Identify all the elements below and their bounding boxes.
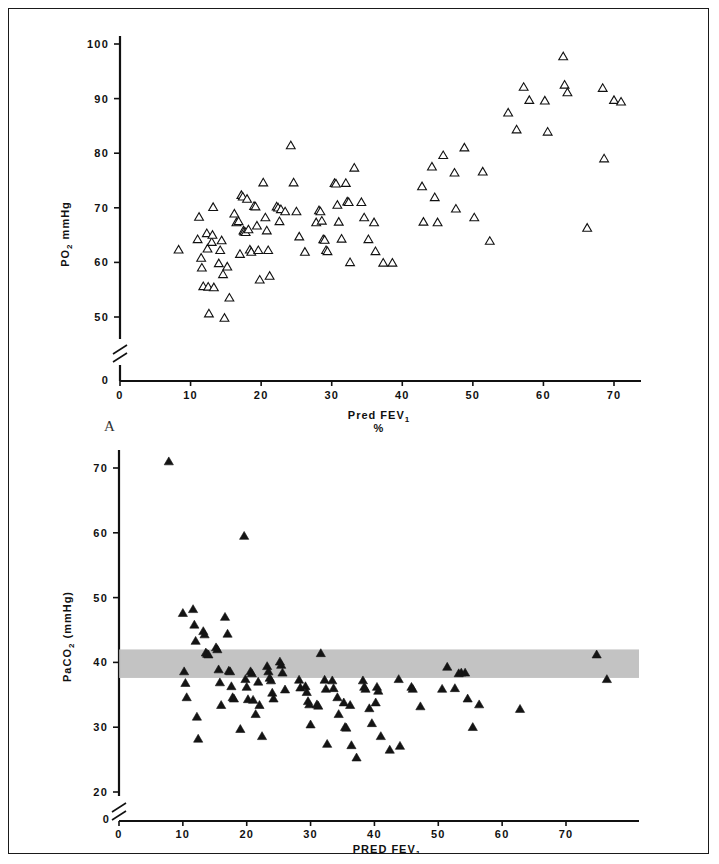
data-point-panel-b xyxy=(191,636,200,644)
x-axis-title-main-panel-b: PRED FEV xyxy=(353,843,416,853)
data-point-panel-b xyxy=(306,720,315,728)
data-point-panel-a xyxy=(460,143,469,151)
y-tick-label-panel-b: 30 xyxy=(93,721,108,733)
y-axis-title-text-panel-b: PaCO2 (mmHg) xyxy=(61,591,76,682)
data-point-panel-b xyxy=(329,684,338,692)
data-point-panel-a xyxy=(317,217,326,225)
data-point-panel-a xyxy=(334,218,343,226)
data-point-panel-a xyxy=(214,259,223,267)
data-point-panel-a xyxy=(230,209,239,217)
data-point-panel-a xyxy=(617,97,626,105)
normal-range-band-panel-b xyxy=(119,649,639,678)
data-point-panel-a xyxy=(195,213,204,221)
data-point-panel-a xyxy=(341,179,350,187)
x-tick-label-panel-a: 40 xyxy=(395,389,410,401)
data-point-panel-a xyxy=(217,236,226,244)
y-tick-label-panel-b: 50 xyxy=(93,592,108,604)
y-axis-title-panel-b: PaCO2 (mmHg) xyxy=(61,591,76,682)
data-point-panel-b xyxy=(194,734,203,742)
data-point-panel-a xyxy=(371,247,380,255)
data-point-panel-b xyxy=(367,719,376,727)
y-axis-title-main-panel-b: PaCO xyxy=(61,648,73,682)
panel-b-scatter-paco2: 2030405060700010203040506070PaCO2 (mmHg)… xyxy=(9,433,710,853)
y-tick-label-panel-a: 100 xyxy=(87,38,109,50)
x-tick-label-panel-a: 0 xyxy=(116,389,123,401)
data-point-panel-a xyxy=(360,213,369,221)
data-point-panel-a xyxy=(292,207,301,215)
y-tick-label-zero-panel-a: 0 xyxy=(102,374,109,386)
y-tick-label-panel-b: 60 xyxy=(93,527,108,539)
x-tick-label-panel-b: 0 xyxy=(115,828,122,840)
data-point-panel-b xyxy=(333,693,342,701)
data-point-panel-a xyxy=(563,88,572,96)
x-axis-title-subscript-panel-b: 1 xyxy=(416,849,421,853)
y-axis-break-upper-panel-b xyxy=(112,803,126,812)
data-point-panel-a xyxy=(333,201,342,209)
x-axis-title-subscript-panel-a: 1 xyxy=(405,415,410,424)
data-point-panel-b xyxy=(475,700,484,708)
data-point-panel-b xyxy=(468,723,477,731)
data-point-panel-b xyxy=(182,693,191,701)
data-point-panel-b xyxy=(178,609,187,617)
data-point-panel-a xyxy=(430,193,439,201)
data-point-panel-a xyxy=(346,258,355,266)
data-point-panel-a xyxy=(370,218,379,226)
x-tick-label-panel-b: 10 xyxy=(176,828,191,840)
data-point-panel-a xyxy=(452,205,461,213)
x-axis-title-main-panel-a: Pred FEV xyxy=(348,409,405,421)
data-point-panel-a xyxy=(216,246,225,254)
data-point-panel-b xyxy=(192,712,201,720)
y-tick-label-panel-a: 80 xyxy=(94,147,109,159)
y-axis-title-panel-a: PO2 mmHg xyxy=(59,201,74,267)
data-point-panel-a xyxy=(478,167,487,175)
data-point-panel-b xyxy=(395,741,404,749)
panel-a-plot-area: 50607080901000010203040506070PO2 mmHgPre… xyxy=(9,9,710,439)
data-point-panel-a xyxy=(583,224,592,232)
data-point-panel-a xyxy=(174,245,183,253)
data-point-panel-a xyxy=(193,235,202,243)
y-tick-label-panel-a: 90 xyxy=(94,93,109,105)
data-point-panel-a xyxy=(559,52,568,60)
data-point-panel-a xyxy=(504,108,513,116)
data-point-panel-b xyxy=(223,629,232,637)
data-point-panel-b xyxy=(164,457,173,465)
data-point-panel-a xyxy=(265,272,274,280)
data-point-panel-b xyxy=(217,701,226,709)
data-point-panel-a xyxy=(439,151,448,159)
data-point-panel-a xyxy=(261,213,270,221)
data-point-panel-a xyxy=(470,213,479,221)
x-tick-label-panel-a: 50 xyxy=(466,389,481,401)
data-point-panel-b xyxy=(334,710,343,718)
data-point-panel-a xyxy=(433,218,442,226)
y-axis-title-units-panel-b: (mmHg) xyxy=(61,591,73,643)
data-point-panel-b xyxy=(268,688,277,696)
x-tick-label-panel-b: 60 xyxy=(495,828,510,840)
data-point-panel-a xyxy=(598,84,607,92)
y-tick-label-panel-b: 70 xyxy=(93,462,108,474)
data-point-panel-b xyxy=(254,677,263,685)
x-tick-label-panel-b: 40 xyxy=(367,828,382,840)
data-point-panel-b xyxy=(371,698,380,706)
y-tick-label-panel-b: 20 xyxy=(93,786,108,798)
x-tick-label-panel-b: 30 xyxy=(303,828,318,840)
data-point-panel-a xyxy=(418,182,427,190)
y-tick-label-panel-a: 70 xyxy=(94,202,109,214)
x-tick-label-panel-b: 50 xyxy=(431,828,446,840)
data-point-panel-a xyxy=(364,235,373,243)
data-point-panel-a xyxy=(512,125,521,133)
data-point-panel-a xyxy=(450,168,459,176)
data-point-panel-b xyxy=(220,612,229,620)
data-point-panel-a xyxy=(543,128,552,136)
data-point-panel-b xyxy=(515,704,524,712)
data-point-panel-a xyxy=(295,232,304,240)
data-point-panel-a xyxy=(388,259,397,267)
data-point-panel-a xyxy=(337,235,346,243)
data-point-panel-a xyxy=(264,246,273,254)
data-point-panel-b xyxy=(257,732,266,740)
data-point-panel-a xyxy=(236,250,245,258)
y-axis-title-main-panel-a: PO xyxy=(59,249,71,267)
data-point-panel-b xyxy=(188,605,197,613)
data-point-panel-a xyxy=(209,203,218,211)
data-point-panel-a xyxy=(350,164,359,172)
data-point-panel-b xyxy=(280,685,289,693)
